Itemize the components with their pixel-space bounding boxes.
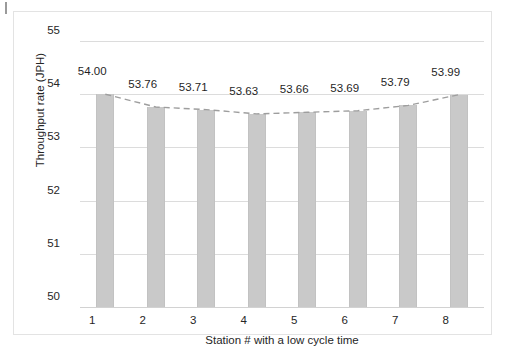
bar-value-label: 53.79 xyxy=(374,76,416,88)
gridline-55 xyxy=(80,41,484,42)
bar xyxy=(147,107,165,307)
bar xyxy=(349,111,367,307)
x-tick-label-6: 6 xyxy=(325,314,365,326)
x-tick-label-2: 2 xyxy=(123,314,163,326)
bar xyxy=(96,94,114,307)
bar-value-label: 54.00 xyxy=(71,65,113,77)
bar-value-label: 53.69 xyxy=(324,82,366,94)
scan-artifact-mark xyxy=(5,2,7,14)
x-axis-title: Station # with a low cycle time xyxy=(80,334,484,346)
y-tick-label-50: 50 xyxy=(34,290,60,302)
bar-value-label: 53.71 xyxy=(172,81,214,93)
y-tick-label-51: 51 xyxy=(34,237,60,249)
x-tick-label-3: 3 xyxy=(173,314,213,326)
x-tick-label-1: 1 xyxy=(72,314,112,326)
bar-value-label: 53.76 xyxy=(122,78,164,90)
gridline-51 xyxy=(80,254,484,255)
chart-frame: 555453525150 Throughput rate (JPH) 54.00… xyxy=(13,11,492,335)
bar xyxy=(197,110,215,307)
x-tick-label-4: 4 xyxy=(224,314,264,326)
bar-value-label: 53.63 xyxy=(223,85,265,97)
x-tick-label-5: 5 xyxy=(274,314,314,326)
bar xyxy=(298,112,316,307)
x-tick-label-8: 8 xyxy=(426,314,466,326)
y-axis-title: Throughput rate (JPH) xyxy=(34,10,46,210)
gridline-52 xyxy=(80,201,484,202)
bar-value-label: 53.99 xyxy=(425,66,467,78)
bar xyxy=(399,105,417,307)
bar xyxy=(450,95,468,307)
gridline-50 xyxy=(80,307,484,308)
x-tick-label-7: 7 xyxy=(375,314,415,326)
bar-value-label: 53.66 xyxy=(273,83,315,95)
bar xyxy=(248,114,266,307)
gridline-53 xyxy=(80,147,484,148)
